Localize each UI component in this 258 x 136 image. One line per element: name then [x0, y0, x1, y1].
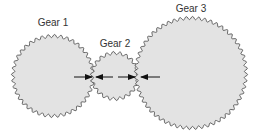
gear-3	[134, 16, 247, 129]
gear-2-label: Gear 2	[100, 38, 131, 49]
gear-1-label: Gear 1	[38, 17, 69, 28]
gear-1	[11, 34, 94, 117]
gear-3-label: Gear 3	[176, 3, 207, 14]
gear-2	[90, 51, 139, 100]
